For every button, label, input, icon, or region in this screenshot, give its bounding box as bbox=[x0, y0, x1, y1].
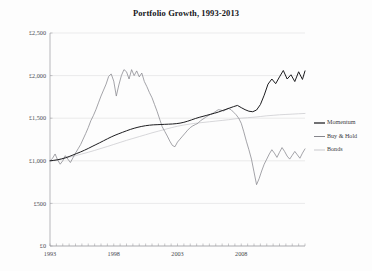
y-axis-tick-label: £2,500 bbox=[29, 29, 46, 36]
legend-label-bonds: Bonds bbox=[327, 146, 343, 152]
gridlines-group bbox=[50, 33, 305, 246]
y-axis-tick-label: £1,500 bbox=[29, 114, 46, 121]
x-axis-tick-label: 2003 bbox=[171, 250, 183, 257]
y-axis-labels-group: £0£500£1,000£1,500£2,000£2,500 bbox=[29, 29, 46, 249]
y-axis-tick-label: £0 bbox=[40, 242, 46, 249]
data-series-group bbox=[50, 70, 305, 185]
legend-label-momentum: Momentum bbox=[327, 119, 356, 125]
tickmarks-group bbox=[50, 33, 305, 246]
chart-legend: MomentumBuy & HoldBonds bbox=[314, 119, 357, 152]
y-axis-tick-label: £2,000 bbox=[29, 72, 46, 79]
x-axis-labels-group: 1993199820032008 bbox=[44, 250, 248, 257]
x-axis-tick-label: 2008 bbox=[235, 250, 247, 257]
chart-title: Portfolio Growth, 1993-2013 bbox=[0, 8, 372, 18]
y-axis-tick-label: £500 bbox=[34, 200, 46, 207]
portfolio-growth-line-chart: £0£500£1,000£1,500£2,000£2,500 199319982… bbox=[0, 0, 372, 271]
x-axis-tick-label: 1998 bbox=[108, 250, 120, 257]
y-axis-tick-label: £1,000 bbox=[29, 157, 46, 164]
x-axis-tick-label: 1993 bbox=[44, 250, 56, 257]
series-line-bonds bbox=[50, 113, 305, 160]
axes-group bbox=[50, 33, 305, 246]
legend-label-buy-hold: Buy & Hold bbox=[327, 133, 357, 139]
chart-figure: Portfolio Growth, 1993-2013 £0£500£1,000… bbox=[0, 0, 372, 271]
